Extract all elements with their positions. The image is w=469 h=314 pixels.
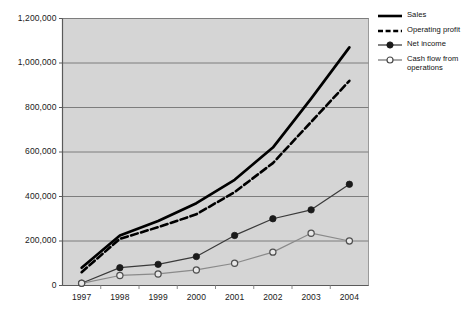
data-point-marker [270, 249, 276, 255]
y-axis-tick-label: 0 [52, 280, 57, 290]
filled-marker-line-swatch [377, 40, 403, 50]
data-point-marker [231, 232, 237, 238]
data-point-marker [79, 280, 85, 286]
x-axis-tick-label: 2003 [291, 292, 331, 302]
legend-item-cash-flow[interactable]: Cash flow from operations [377, 54, 467, 73]
x-axis-tick-label: 1997 [62, 292, 102, 302]
legend-label-sales: Sales [407, 10, 426, 20]
data-point-marker [155, 271, 161, 277]
legend-item-operating-profit[interactable]: Operating profit [377, 25, 467, 36]
legend-label-operating-profit: Operating profit [407, 25, 460, 35]
data-point-marker [346, 181, 352, 187]
legend-item-net-income[interactable]: Net income [377, 39, 467, 50]
data-point-marker [117, 265, 123, 271]
data-point-marker [117, 272, 123, 278]
y-axis-tick-label: 1,000,000 [18, 57, 57, 67]
data-point-marker [232, 260, 238, 266]
chart-legend: Sales Operating profit Net income [377, 10, 467, 76]
y-axis-tick-label: 800,000 [25, 102, 56, 112]
legend-label-cash-flow: Cash flow from operations [407, 54, 467, 73]
open-marker-line-swatch [377, 55, 403, 65]
solid-thick-line-swatch [377, 11, 403, 21]
data-point-marker [308, 230, 314, 236]
x-axis-tick-label: 2004 [329, 292, 369, 302]
y-axis-tick-label: 400,000 [25, 191, 56, 201]
legend-item-sales[interactable]: Sales [377, 10, 467, 21]
y-axis-tick-label: 600,000 [25, 146, 56, 156]
dashed-thick-line-swatch [377, 26, 403, 36]
y-axis-tick-label: 1,200,000 [18, 13, 57, 23]
x-axis-tick-label: 2001 [215, 292, 255, 302]
x-axis-tick-label: 2000 [176, 292, 216, 302]
data-point-marker [346, 238, 352, 244]
x-axis-tick-label: 1998 [100, 292, 140, 302]
data-point-marker [270, 216, 276, 222]
data-point-marker [193, 253, 199, 259]
data-point-marker [155, 261, 161, 267]
data-point-marker [308, 207, 314, 213]
legend-label-net-income: Net income [407, 39, 446, 49]
data-point-marker [193, 267, 199, 273]
y-axis-tick-label: 200,000 [25, 235, 56, 245]
x-axis-tick-label: 1999 [138, 292, 178, 302]
financial-line-chart: Sales Operating profit Net income [0, 0, 469, 314]
x-axis-tick-label: 2002 [253, 292, 293, 302]
